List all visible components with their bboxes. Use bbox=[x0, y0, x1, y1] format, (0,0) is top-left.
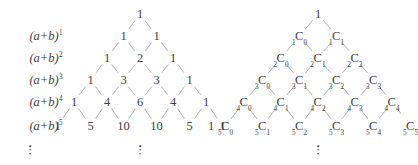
left-cell-r3-c0: 1 bbox=[87, 74, 93, 87]
right-cell-r2-c0: 2C0 bbox=[273, 52, 288, 65]
connector-line bbox=[323, 20, 331, 29]
row-label-exponent: 4 bbox=[59, 95, 63, 103]
ncr-c-symbol: C bbox=[332, 119, 340, 133]
left-cell-r5-c1: 5 bbox=[87, 120, 93, 133]
left-cell-r3-c3: 1 bbox=[186, 74, 192, 87]
ncr-r: 1 bbox=[341, 39, 345, 47]
ellipsis-left-triangle bbox=[139, 145, 141, 154]
row-label-exponent: 2 bbox=[59, 51, 63, 59]
ncr-r: 1 bbox=[322, 61, 326, 69]
row-label-base: (a+b) bbox=[29, 51, 58, 65]
ncr-r: 2 bbox=[359, 61, 363, 69]
row-label-4: (a+b)4 bbox=[29, 96, 62, 109]
left-cell-r5-c3: 10 bbox=[150, 120, 163, 133]
ncr-n: 2 bbox=[310, 61, 314, 69]
connector-line bbox=[178, 109, 185, 119]
ncr-n: 3 bbox=[255, 83, 259, 91]
connector-line bbox=[129, 64, 135, 72]
right-apex-value: 1 bbox=[315, 8, 321, 21]
connector-line bbox=[79, 86, 85, 94]
connector-line bbox=[112, 64, 118, 72]
right-cell-r4-c1: 4C1 bbox=[273, 96, 288, 109]
ncr-c-symbol: C bbox=[277, 95, 285, 109]
ncr-r: 1 bbox=[285, 105, 289, 113]
ncr-c-symbol: C bbox=[369, 119, 377, 133]
left-cell-r4-c3: 4 bbox=[170, 96, 176, 109]
connector-line bbox=[145, 42, 151, 50]
ncr-n: 4 bbox=[347, 105, 351, 113]
right-cell-r4-c4: 4C4 bbox=[384, 96, 399, 109]
left-cell-r4-c1: 4 bbox=[104, 96, 110, 109]
right-cell-r5-c2: 5C2 bbox=[292, 120, 307, 133]
right-outer-one: 1 bbox=[208, 120, 214, 133]
connector-line bbox=[129, 20, 135, 28]
ncr-n: 5 bbox=[255, 129, 259, 137]
row-label-1: (a+b)1 bbox=[29, 30, 62, 43]
ncr-n: 3 bbox=[292, 83, 296, 91]
right-cell-r1-c1: 1C1 bbox=[329, 30, 344, 43]
connector-line bbox=[161, 42, 167, 50]
connector-line bbox=[63, 109, 70, 119]
right-cell-r3-c3: 3C3 bbox=[366, 74, 381, 87]
right-cell-r3-c0: 3C0 bbox=[255, 74, 270, 87]
right-cell-r5-c3: 5C3 bbox=[329, 120, 344, 133]
connector-line bbox=[145, 20, 151, 28]
connector-line bbox=[145, 109, 152, 119]
ncr-r: 2 bbox=[304, 129, 308, 137]
left-cell-r1-c1: 1 bbox=[153, 30, 159, 43]
ncr-r: 4 bbox=[396, 105, 400, 113]
ncr-r: 1 bbox=[267, 129, 271, 137]
left-cell-r3-c2: 3 bbox=[153, 74, 159, 87]
connector-line bbox=[96, 109, 103, 119]
ncr-c-symbol: C bbox=[295, 119, 303, 133]
left-cell-r4-c0: 1 bbox=[71, 96, 77, 109]
connector-line bbox=[96, 64, 102, 72]
ncr-c-symbol: C bbox=[406, 119, 414, 133]
ncr-c-symbol: C bbox=[332, 29, 340, 43]
left-apex-value: 1 bbox=[137, 8, 143, 21]
ncr-c-symbol: C bbox=[295, 29, 303, 43]
connector-line bbox=[211, 109, 218, 119]
ellipsis-right-triangle bbox=[317, 145, 319, 154]
connector-line bbox=[194, 86, 200, 94]
ncr-r: 1 bbox=[304, 83, 308, 91]
ncr-n: 5 bbox=[292, 129, 296, 137]
connector-line bbox=[112, 109, 119, 119]
connector-line bbox=[178, 64, 184, 72]
row-label-exponent: 1 bbox=[59, 29, 63, 37]
ncr-c-symbol: C bbox=[258, 73, 266, 87]
connector-line bbox=[305, 20, 313, 29]
ncr-r: 3 bbox=[341, 129, 345, 137]
right-cell-r3-c1: 3C1 bbox=[292, 74, 307, 87]
ncr-r: 0 bbox=[285, 61, 289, 69]
ncr-r: 0 bbox=[304, 39, 308, 47]
ncr-c-symbol: C bbox=[369, 73, 377, 87]
ncr-n: 5 bbox=[366, 129, 370, 137]
ncr-r: 3 bbox=[359, 105, 363, 113]
ncr-c-symbol: C bbox=[295, 73, 303, 87]
right-cell-r2-c2: 2C2 bbox=[347, 52, 362, 65]
connector-line bbox=[129, 109, 136, 119]
ncr-c-symbol: C bbox=[351, 51, 359, 65]
ncr-r: 0 bbox=[267, 83, 271, 91]
row-label-base: (a+b) bbox=[29, 95, 58, 109]
left-cell-r3-c1: 3 bbox=[120, 74, 126, 87]
left-cell-r2-c2: 1 bbox=[170, 52, 176, 65]
right-cell-r2-c1: 2C1 bbox=[310, 52, 325, 65]
ncr-c-symbol: C bbox=[221, 119, 229, 133]
row-label-2: (a+b)2 bbox=[29, 52, 62, 65]
right-cell-r4-c3: 4C3 bbox=[347, 96, 362, 109]
ncr-n: 5 bbox=[329, 129, 333, 137]
ncr-c-symbol: C bbox=[240, 95, 248, 109]
ncr-n: 4 bbox=[384, 105, 388, 113]
left-cell-r4-c4: 1 bbox=[203, 96, 209, 109]
left-cell-r5-c0: 1 bbox=[54, 120, 60, 133]
left-cell-r5-c4: 5 bbox=[186, 120, 192, 133]
ncr-r: 2 bbox=[322, 105, 326, 113]
ncr-n: 5 bbox=[403, 129, 407, 137]
left-cell-r5-c2: 10 bbox=[117, 120, 130, 133]
connector-line bbox=[112, 42, 118, 50]
ncr-c-symbol: C bbox=[314, 51, 322, 65]
ncr-n: 3 bbox=[329, 83, 333, 91]
